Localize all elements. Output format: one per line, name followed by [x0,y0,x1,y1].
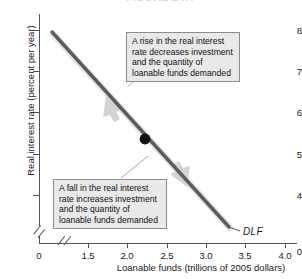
annotation-rise-line-3: and the quantity of [132,57,235,68]
demand-curve-label: DLF [243,226,263,237]
annotation-rise-line-1: A rise in the real interest [132,36,235,47]
annotation-fall-line-3: and the quantity of [59,204,162,215]
annotation-fall-box: A fall in the real interest rate increas… [53,179,167,229]
annotation-rise-line-4: loanable funds demanded [132,68,235,79]
annotation-fall-line-4: loanable funds demanded [59,215,162,226]
equilibrium-point-marker [140,134,151,145]
annotation-fall-line-2: rate increases investment [59,194,162,205]
annotation-rise-box: A rise in the real interest rate decreas… [126,32,240,82]
leader-line-fall [121,156,148,178]
annotation-fall-line-1: A fall in the real interest [59,183,162,194]
chart-figure: FIGURE 24.4 8 7 6 5 4 0 0 1.5 2.0 2.5 3.… [0,0,302,279]
annotation-rise-line-2: rate decreases investment [132,47,235,58]
